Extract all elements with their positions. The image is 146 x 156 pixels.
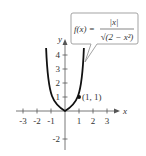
x-tick-label: -3 (19, 116, 27, 126)
x-axis-label: x (122, 106, 127, 116)
point-label: (1, 1) (82, 92, 102, 102)
callout-denominator: √(2 − x²) (101, 32, 134, 42)
x-tick-label: 3 (105, 116, 110, 126)
callout-numerator: |x| (110, 17, 119, 27)
y-tick-label: -2 (53, 134, 61, 144)
y-axis-label: y (57, 34, 62, 44)
x-tick-label: -2 (33, 116, 41, 126)
y-axis-arrow-icon (63, 39, 68, 45)
function-graph: -3 -2 -1 1 2 3 -2 1 2 3 4 x y (1, 1) f(x… (0, 0, 146, 156)
y-tick-label: 3 (56, 64, 61, 74)
function-callout: f(x) = |x| √(2 − x²) (71, 13, 138, 62)
y-tick-label: 1 (56, 92, 61, 102)
y-tick-label: 4 (56, 50, 61, 60)
y-tick-label: 2 (56, 78, 61, 88)
x-tick-label: 2 (91, 116, 96, 126)
x-tick-label: 1 (77, 116, 82, 126)
callout-lhs: f(x) = (74, 24, 95, 34)
x-tick-label: -1 (47, 116, 55, 126)
x-axis-arrow-icon (114, 109, 120, 114)
point-marker (77, 95, 81, 99)
